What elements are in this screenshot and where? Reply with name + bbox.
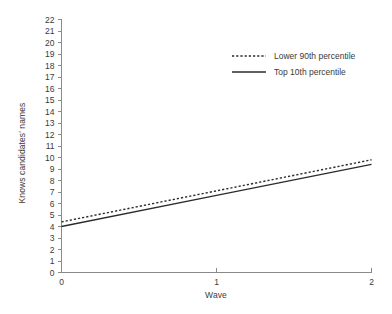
y-tick-label: 12 — [45, 130, 55, 140]
plot-area: 012345678910111213141516171819202122 012… — [0, 0, 392, 314]
y-tick-label: 17 — [45, 72, 55, 82]
y-tick-label: 0 — [50, 268, 55, 278]
y-axis-ticks: 012345678910111213141516171819202122 — [45, 15, 61, 278]
y-tick-label: 1 — [50, 256, 55, 266]
y-tick-label: 7 — [50, 187, 55, 197]
series-line-1 — [62, 160, 372, 222]
y-tick-label: 13 — [45, 118, 55, 128]
y-tick-label: 19 — [45, 49, 55, 59]
y-tick-label: 14 — [45, 107, 55, 117]
y-tick-label: 22 — [45, 15, 55, 25]
series-line-2 — [62, 164, 372, 226]
x-tick-label: 1 — [214, 277, 219, 287]
y-tick-label: 3 — [50, 233, 55, 243]
legend-label-1: Lower 90th percentile — [274, 51, 356, 61]
legend-label-2: Top 10th percentile — [274, 67, 346, 77]
chart-legend: Lower 90th percentileTop 10th percentile — [232, 51, 356, 77]
series-layer — [62, 160, 372, 227]
y-tick-label: 2 — [50, 245, 55, 255]
y-tick-label: 11 — [46, 141, 55, 151]
y-tick-label: 20 — [45, 38, 55, 48]
y-tick-label: 18 — [45, 61, 55, 71]
chart-figure: Knows candidates' names Wave 01234567891… — [0, 0, 392, 314]
y-tick-label: 9 — [50, 164, 55, 174]
x-tick-label: 0 — [59, 277, 64, 287]
y-tick-label: 15 — [45, 95, 55, 105]
y-tick-label: 10 — [45, 153, 55, 163]
x-tick-label: 2 — [369, 277, 374, 287]
y-tick-label: 4 — [50, 222, 55, 232]
x-axis-ticks: 012 — [59, 268, 374, 287]
y-tick-label: 6 — [50, 199, 55, 209]
y-tick-label: 16 — [45, 84, 55, 94]
y-tick-label: 8 — [50, 176, 55, 186]
y-tick-label: 21 — [45, 26, 55, 36]
y-tick-label: 5 — [50, 210, 55, 220]
